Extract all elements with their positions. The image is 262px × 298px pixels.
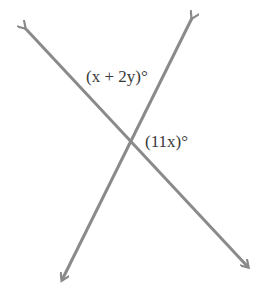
top-angle-label: (x + 2y)° <box>86 67 148 87</box>
lines-svg <box>0 0 262 298</box>
diagram-canvas: (x + 2y)° (11x)° <box>0 0 262 298</box>
right-angle-label: (11x)° <box>145 132 188 152</box>
line-a-arrow-icon <box>25 28 248 267</box>
